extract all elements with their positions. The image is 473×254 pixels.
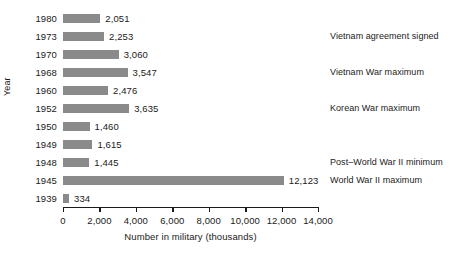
year-label: 1948 — [0, 157, 57, 168]
bar-row: 19732,253Vietnam agreement signed — [0, 28, 473, 46]
bar-row: 194512,123World War II maximum — [0, 172, 473, 190]
x-axis-tick-label: 12,000 — [267, 215, 297, 226]
bar — [63, 122, 90, 131]
x-axis-tick — [63, 207, 64, 212]
year-label: 1980 — [0, 13, 57, 24]
year-label: 1970 — [0, 49, 57, 60]
bar-annotation-label: Vietnam War maximum — [330, 67, 424, 77]
bar-value-label: 2,253 — [109, 31, 133, 42]
bar-row: 19802,051 — [0, 10, 473, 28]
x-axis-tick-label: 8,000 — [197, 215, 221, 226]
bar — [63, 50, 119, 59]
bar-row: 1939334 — [0, 190, 473, 208]
bar — [63, 104, 129, 113]
bar — [63, 158, 89, 167]
x-axis-tick-label: 2,000 — [87, 215, 111, 226]
bar-row: 19481,445Post–World War II minimum — [0, 154, 473, 172]
bar — [63, 14, 100, 23]
x-axis-title: Number in military (thousands) — [63, 231, 318, 242]
x-axis-tick — [209, 207, 210, 212]
year-label: 1952 — [0, 103, 57, 114]
bar-annotation-label: Post–World War II minimum — [330, 157, 443, 167]
bar-row: 19491,615 — [0, 136, 473, 154]
year-label: 1968 — [0, 67, 57, 78]
bar — [63, 140, 92, 149]
bar-value-label: 1,460 — [95, 121, 119, 132]
year-label: 1973 — [0, 31, 57, 42]
bar-row: 19501,460 — [0, 118, 473, 136]
bar — [63, 32, 104, 41]
year-label: 1949 — [0, 139, 57, 150]
x-axis-tick — [136, 207, 137, 212]
bar-annotation-label: Korean War maximum — [330, 103, 420, 113]
bar-value-label: 3,635 — [134, 103, 158, 114]
x-axis-tick-label: 10,000 — [230, 215, 260, 226]
x-axis-tick-label: 4,000 — [124, 215, 148, 226]
year-label: 1960 — [0, 85, 57, 96]
x-axis-line — [63, 207, 318, 208]
bar-value-label: 1,615 — [97, 139, 121, 150]
x-axis-tick-label: 14,000 — [303, 215, 333, 226]
bar-value-label: 3,060 — [124, 49, 148, 60]
bar — [63, 176, 284, 185]
year-label: 1945 — [0, 175, 57, 186]
bar-value-label: 1,445 — [94, 157, 118, 168]
year-label: 1950 — [0, 121, 57, 132]
bar-annotation-label: Vietnam agreement signed — [330, 31, 439, 41]
bar-row: 19602,476 — [0, 82, 473, 100]
x-axis-tick — [318, 207, 319, 212]
bar-value-label: 3,547 — [133, 67, 157, 78]
x-axis-tick — [172, 207, 173, 212]
x-axis-tick — [282, 207, 283, 212]
bar-row: 19703,060 — [0, 46, 473, 64]
bar-annotation-label: World War II maximum — [330, 175, 422, 185]
x-axis-tick — [99, 207, 100, 212]
x-axis-tick — [245, 207, 246, 212]
military-personnel-bar-chart: Year 19802,05119732,253Vietnam agreement… — [0, 0, 473, 254]
bar-row: 19683,547Vietnam War maximum — [0, 64, 473, 82]
bar-value-label: 334 — [74, 193, 90, 204]
bar — [63, 194, 69, 203]
bar-row: 19523,635Korean War maximum — [0, 100, 473, 118]
x-axis-tick-label: 6,000 — [160, 215, 184, 226]
x-axis: 02,0004,0006,0008,00010,00012,00014,000 — [0, 207, 473, 217]
bar — [63, 86, 108, 95]
bar-value-label: 2,476 — [113, 85, 137, 96]
bar-value-label: 12,123 — [289, 175, 319, 186]
bar — [63, 68, 128, 77]
year-label: 1939 — [0, 193, 57, 204]
x-axis-tick-label: 0 — [60, 215, 65, 226]
bar-value-label: 2,051 — [105, 13, 129, 24]
